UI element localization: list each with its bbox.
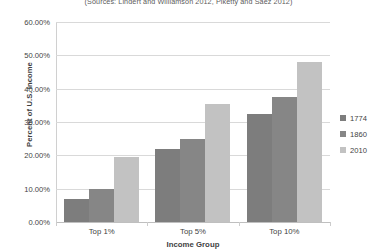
y-axis-tick-label: 40.00% bbox=[6, 84, 50, 93]
bar-slot bbox=[247, 22, 272, 222]
y-axis-tick-label: 0.00% bbox=[6, 218, 50, 227]
bar-slot bbox=[64, 22, 89, 222]
bar-group bbox=[56, 22, 147, 222]
y-axis-tick-label: 60.00% bbox=[6, 18, 50, 27]
bar-1860-top5 bbox=[180, 139, 205, 222]
bar-slot bbox=[89, 22, 114, 222]
x-axis-tick bbox=[147, 222, 148, 226]
y-axis-tick-labels: 0.00%10.00%20.00%30.00%40.00%50.00%60.00… bbox=[0, 0, 50, 251]
bar-2010-top5 bbox=[205, 104, 230, 222]
bar-1860-top1 bbox=[89, 189, 114, 222]
bar-chart: (Sources: Lindert and Williamson 2012, P… bbox=[0, 0, 377, 251]
bar-slot bbox=[180, 22, 205, 222]
chart-source-note: (Sources: Lindert and Williamson 2012, P… bbox=[0, 0, 377, 6]
bar-slot bbox=[205, 22, 230, 222]
bar-2010-top1 bbox=[114, 157, 139, 222]
bar-1774-top5 bbox=[155, 149, 180, 222]
plot-area bbox=[56, 22, 330, 222]
bar-slot bbox=[272, 22, 297, 222]
x-axis-tick bbox=[239, 222, 240, 226]
bar-2010-top10 bbox=[297, 62, 322, 222]
bar-slot bbox=[114, 22, 139, 222]
legend-entry-2010[interactable]: 2010 bbox=[340, 142, 367, 158]
y-axis-tick-label: 50.00% bbox=[6, 51, 50, 60]
x-axis-tick-label: Top 1% bbox=[56, 227, 147, 236]
legend-label: 2010 bbox=[350, 146, 367, 155]
y-axis-tick-label: 20.00% bbox=[6, 151, 50, 160]
x-axis-tick-labels: Top 1%Top 5%Top 10% bbox=[56, 227, 330, 236]
bar-slot bbox=[297, 22, 322, 222]
bar-1774-top1 bbox=[64, 199, 89, 222]
bar-groups bbox=[56, 22, 330, 222]
x-axis-tick bbox=[330, 222, 331, 226]
legend-swatch-icon bbox=[340, 131, 346, 137]
chart-legend: 177418602010 bbox=[340, 110, 367, 158]
x-axis-title: Income Group bbox=[56, 240, 330, 249]
legend-swatch-icon bbox=[340, 147, 346, 153]
bar-group bbox=[239, 22, 330, 222]
bar-1774-top10 bbox=[247, 114, 272, 222]
x-axis-tick bbox=[56, 222, 57, 226]
legend-label: 1860 bbox=[350, 130, 367, 139]
legend-swatch-icon bbox=[340, 115, 346, 121]
y-axis-tick-label: 10.00% bbox=[6, 184, 50, 193]
bar-group bbox=[147, 22, 238, 222]
gridline bbox=[56, 222, 330, 223]
legend-entry-1774[interactable]: 1774 bbox=[340, 110, 367, 126]
bar-1860-top10 bbox=[272, 97, 297, 222]
x-axis-tick-label: Top 5% bbox=[147, 227, 238, 236]
y-axis-tick-label: 30.00% bbox=[6, 118, 50, 127]
legend-label: 1774 bbox=[350, 114, 367, 123]
bar-slot bbox=[155, 22, 180, 222]
x-axis-tick-label: Top 10% bbox=[239, 227, 330, 236]
legend-entry-1860[interactable]: 1860 bbox=[340, 126, 367, 142]
